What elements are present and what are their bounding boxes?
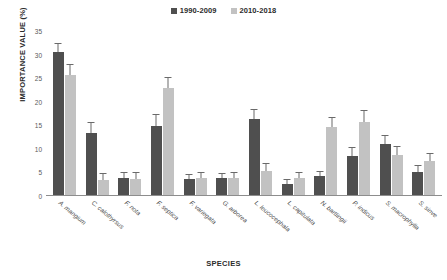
error-bar (429, 154, 430, 161)
bar-wrapper (118, 178, 129, 196)
bar-group (407, 31, 440, 196)
x-tick-label: S. sinve (417, 199, 439, 219)
legend-item-label: 2010-2018 (240, 6, 277, 15)
error-bar (221, 174, 222, 178)
bar-wrapper (216, 178, 227, 196)
bar (184, 179, 195, 196)
error-bar (189, 175, 190, 179)
bar-group (375, 31, 408, 196)
bar-group (211, 31, 244, 196)
bar-wrapper (294, 178, 305, 196)
x-tick-label: F. septica (156, 199, 181, 221)
bar-chart-figure: 1990-20092010-2018 IMPORTANCE VALUE (%) … (0, 0, 447, 280)
bar-group (244, 31, 277, 196)
error-bar (91, 123, 92, 133)
error-bar-cap (198, 172, 205, 173)
x-tick-slot: S. macrophylla (375, 197, 408, 255)
bar (261, 171, 272, 196)
bar-wrapper (326, 127, 337, 196)
bar (65, 75, 76, 196)
error-bar (331, 118, 332, 127)
x-tick-slot: A. mangium (48, 197, 81, 255)
bar-group (81, 31, 114, 196)
x-tick-label: F. nota (123, 199, 142, 216)
bar-group (277, 31, 310, 196)
bar (216, 178, 227, 196)
bar (294, 178, 305, 196)
error-bar-cap (414, 165, 421, 166)
legend-item: 2010-2018 (231, 6, 277, 15)
bar (86, 133, 97, 196)
bar-wrapper (412, 172, 423, 197)
error-bar (201, 173, 202, 178)
y-tick-label: 35 (35, 28, 42, 35)
plot-area: 05101520253035 (46, 31, 442, 196)
error-bar-cap (165, 77, 172, 78)
bar-wrapper (249, 119, 260, 196)
error-bar (156, 115, 157, 125)
y-tick-label: 30 (35, 51, 42, 58)
bar-wrapper (196, 178, 207, 196)
error-bar-cap (382, 135, 389, 136)
y-tick-label: 25 (35, 75, 42, 82)
error-bar (397, 147, 398, 155)
error-bar-cap (394, 146, 401, 147)
bar (228, 178, 239, 196)
x-tick-slot: F. nota (113, 197, 146, 255)
x-axis-title: SPECIES (0, 259, 447, 268)
bar (392, 155, 403, 196)
legend-swatch-icon (231, 8, 237, 14)
bar (424, 161, 435, 196)
x-tick-slot: F. septica (146, 197, 179, 255)
x-axis-line (46, 195, 442, 196)
legend-item: 1990-2009 (171, 6, 217, 15)
chart-legend: 1990-20092010-2018 (0, 6, 447, 15)
bar-wrapper (98, 180, 109, 196)
x-tick-slot: C. calothyrsus (81, 197, 114, 255)
error-bar (299, 173, 300, 178)
bar-group (146, 31, 179, 196)
bar-wrapper (424, 161, 435, 196)
x-axis-tick-labels: A. mangiumC. calothyrsusF. notaF. septic… (46, 197, 442, 255)
error-bar-cap (296, 172, 303, 173)
bar-series-container (46, 31, 442, 196)
error-bar (135, 173, 136, 178)
y-tick-label: 15 (35, 122, 42, 129)
error-bar-cap (316, 171, 323, 172)
error-bar (168, 78, 169, 88)
bar-wrapper (184, 179, 195, 196)
bar (249, 119, 260, 196)
error-bar-cap (186, 174, 193, 175)
x-tick-slot: L. leucocephala (244, 197, 277, 255)
bar-wrapper (65, 75, 76, 196)
error-bar (233, 173, 234, 178)
bar (151, 126, 162, 196)
error-bar-cap (55, 43, 62, 44)
bar-wrapper (151, 126, 162, 196)
y-tick-label: 20 (35, 98, 42, 105)
error-bar (287, 180, 288, 184)
bar-group (342, 31, 375, 196)
bar (314, 176, 325, 196)
bar (412, 172, 423, 197)
bar-wrapper (314, 176, 325, 196)
bar-group (113, 31, 146, 196)
bar-wrapper (53, 52, 64, 196)
error-bar-cap (153, 114, 160, 115)
bar (196, 178, 207, 196)
error-bar (103, 174, 104, 180)
error-bar-cap (120, 172, 127, 173)
y-axis-title: IMPORTANCE VALUE (%) (18, 0, 27, 125)
error-bar-cap (100, 173, 107, 174)
bar-wrapper (130, 179, 141, 196)
bar (53, 52, 64, 196)
bar-group (309, 31, 342, 196)
x-tick-label: P. indicus (352, 199, 377, 221)
bar-wrapper (380, 144, 391, 196)
error-bar (364, 111, 365, 121)
error-bar (385, 136, 386, 144)
bar-wrapper (163, 88, 174, 196)
error-bar-cap (328, 117, 335, 118)
bar-wrapper (359, 122, 370, 196)
error-bar (266, 164, 267, 171)
